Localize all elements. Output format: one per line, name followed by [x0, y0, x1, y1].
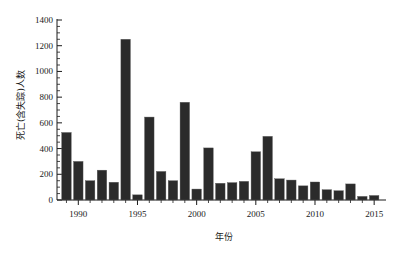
bar [74, 161, 83, 200]
bar [227, 183, 236, 200]
x-tick-label: 2015 [365, 209, 384, 219]
bar [168, 181, 177, 200]
x-tick-label: 2005 [247, 209, 266, 219]
chart-figure: 死亡(含失踪)人数 年份 0200400600800100012001400 1… [0, 0, 394, 257]
y-tick-label: 400 [40, 144, 54, 154]
bar [204, 148, 213, 200]
y-axis-title: 死亡(含失踪)人数 [15, 70, 26, 140]
bar [346, 184, 355, 200]
bar [298, 186, 307, 200]
bar-chart-svg: 死亡(含失踪)人数 年份 0200400600800100012001400 1… [0, 0, 394, 257]
bar [334, 191, 343, 200]
bar [192, 189, 201, 200]
bar [263, 136, 272, 200]
bar-series [62, 39, 379, 200]
bar [358, 196, 367, 200]
bar [121, 39, 130, 200]
x-tick-label: 1995 [128, 209, 147, 219]
x-tick-label: 2010 [306, 209, 325, 219]
x-tick-label: 1990 [69, 209, 88, 219]
x-tick-label: 2000 [188, 209, 207, 219]
bar [251, 152, 260, 200]
y-tick-label: 600 [40, 118, 54, 128]
bar [85, 181, 94, 200]
bar [239, 181, 248, 200]
y-tick-label: 1200 [35, 41, 54, 51]
bar [156, 171, 165, 200]
bar [133, 195, 142, 200]
x-axis-ticks [66, 200, 374, 205]
y-tick-label: 800 [40, 92, 54, 102]
x-axis-title: 年份 [215, 231, 233, 242]
bar [180, 102, 189, 200]
bar [145, 117, 154, 200]
y-tick-label: 0 [49, 195, 54, 205]
bar [216, 183, 225, 200]
bar [310, 182, 319, 200]
bar [322, 190, 331, 200]
bar [287, 180, 296, 200]
bar [275, 179, 284, 200]
bar [62, 133, 71, 201]
bar [369, 196, 378, 201]
bar [109, 182, 118, 200]
y-axis-tick-labels: 0200400600800100012001400 [35, 15, 54, 205]
y-axis-ticks [57, 20, 62, 200]
x-axis-tick-labels: 199019952000200520102015 [69, 209, 383, 219]
bar [97, 170, 106, 200]
y-tick-label: 1400 [35, 15, 54, 25]
y-tick-label: 200 [40, 169, 54, 179]
y-tick-label: 1000 [35, 66, 54, 76]
